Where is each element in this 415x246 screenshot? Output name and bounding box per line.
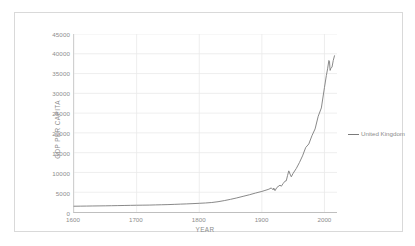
series-united-kingdom [74, 34, 337, 212]
x-axis-title: YEAR [73, 226, 337, 233]
x-axis-tick-label: 1900 [255, 216, 269, 224]
chart-legend[interactable]: United Kingdom [348, 130, 405, 138]
x-axis-tick-label: 2000 [318, 216, 332, 224]
x-axis-tick-label: 1600 [66, 216, 80, 224]
x-axis-tick-label: 1800 [192, 216, 206, 224]
y-axis-tick-labels: 0500010000150002000025000300003500040000… [25, 34, 70, 213]
legend-item-label: United Kingdom [361, 130, 405, 138]
plot-area [73, 34, 337, 213]
chart-screenshot: 0500010000150002000025000300003500040000… [0, 0, 415, 246]
legend-line-swatch-icon [348, 134, 359, 135]
x-axis-tick-label: 1700 [129, 216, 143, 224]
y-axis-title: GDP PER CAPITA [54, 70, 61, 190]
chart-frame: 0500010000150002000025000300003500040000… [14, 12, 403, 232]
y-axis-title-wrapper: GDP PER CAPITA [33, 34, 47, 213]
